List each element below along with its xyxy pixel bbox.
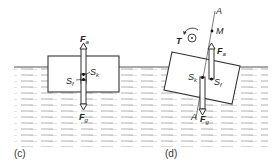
metacenter-point: [211, 30, 214, 33]
center-of-buoyancy-point-d: [210, 78, 213, 81]
center-of-gravity-point-d: [201, 76, 204, 79]
metacenter-label: M: [216, 26, 224, 36]
torque-icon: [183, 28, 198, 42]
buoyancy-force-label-c: Fa: [80, 34, 90, 45]
buoyancy-force-arrow-d: [208, 43, 215, 79]
axis-label-top: A: [215, 6, 222, 16]
axis-label-bottom: A: [190, 112, 197, 122]
buoyancy-force-label-d: Fa: [217, 46, 227, 57]
panel-c: Fa Sk Sf Fg (c): [14, 34, 140, 159]
gravity-force-arrow-c: [80, 80, 87, 110]
panel-d: A M T Fa Sk Sf A Fg (d): [140, 6, 268, 159]
caption-d: (d): [165, 148, 177, 159]
torque-label: T: [176, 36, 183, 46]
caption-c: (c): [14, 148, 26, 159]
gravity-force-arrow-d: [199, 77, 206, 115]
buoyancy-diagram: Fa Sk Sf Fg (c): [0, 0, 280, 166]
